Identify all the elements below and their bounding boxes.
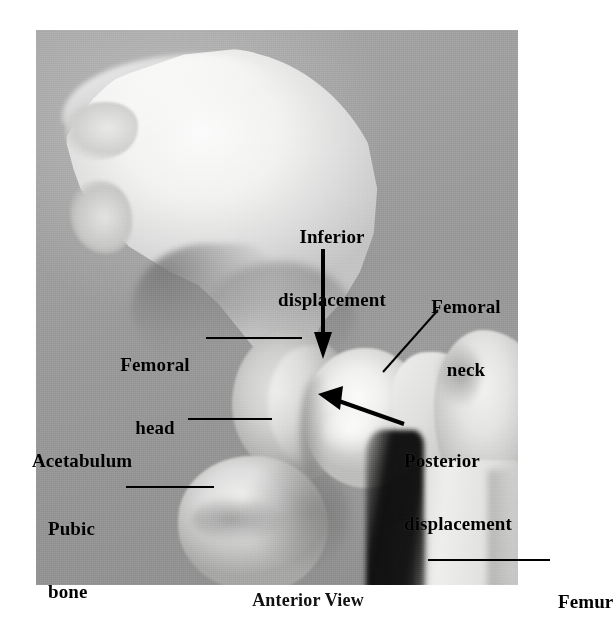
pubic-bone-leader [126, 486, 214, 488]
label-posterior-displacement-line2: displacement [404, 513, 512, 534]
label-inferior-displacement-line1: Inferior [232, 226, 432, 247]
label-pubic-bone-line1: Pubic [48, 518, 95, 539]
label-femoral-neck-line2: neck [400, 359, 532, 380]
posterior-displacement-arrow [318, 386, 404, 424]
figure-caption: Anterior View [0, 590, 616, 611]
label-femoral-neck: Femoral neck [400, 254, 532, 422]
acetabulum-leader [188, 418, 272, 420]
label-acetabulum-line1: Acetabulum [32, 450, 132, 471]
label-femoral-neck-line1: Femoral [400, 296, 532, 317]
femoral-head-leader [206, 337, 302, 339]
label-femoral-head-line1: Femoral [96, 354, 214, 375]
label-posterior-displacement-line1: Posterior [404, 450, 512, 471]
label-posterior-displacement: Posterior displacement [404, 408, 512, 576]
femur-leader [428, 559, 550, 561]
anatomy-figure: Inferior displacement Femoral neck Femor… [0, 0, 616, 619]
annotation-layer: Inferior displacement Femoral neck Femor… [0, 0, 616, 619]
